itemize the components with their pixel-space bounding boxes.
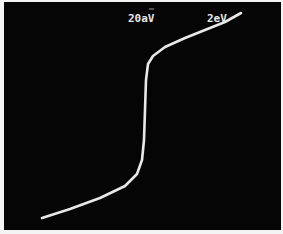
scale-label-right: 2eV xyxy=(207,13,227,25)
trace-svg xyxy=(0,0,283,234)
scale-label-left: 20aV xyxy=(128,13,155,25)
trace-curve xyxy=(42,13,241,218)
